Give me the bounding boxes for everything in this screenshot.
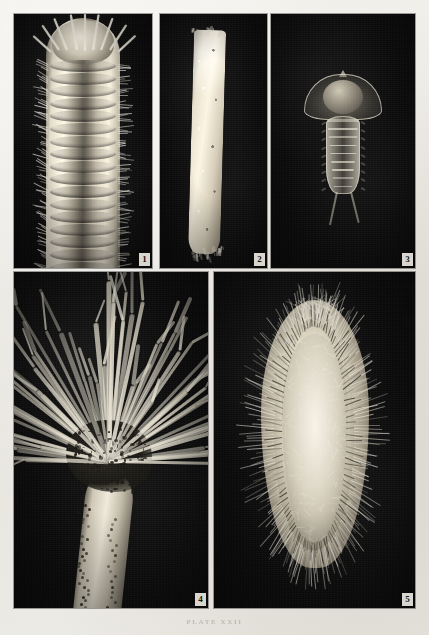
- segment-ring-5: [330, 153, 356, 155]
- crown-papilla: [99, 429, 101, 433]
- dorsal-hair: [320, 448, 321, 457]
- crown-papilla: [113, 488, 117, 490]
- trunk-papilla: [77, 511, 80, 514]
- crown-papilla: [93, 463, 97, 468]
- segment-11: [50, 186, 116, 198]
- crown-papilla: [129, 450, 131, 452]
- crown-papilla: [88, 458, 90, 461]
- chaeta: [118, 230, 126, 231]
- trunk-papilla: [77, 545, 80, 548]
- chaeta: [118, 70, 126, 71]
- crown-papilla: [109, 450, 112, 453]
- dorsal-hair: [291, 348, 298, 349]
- segment-3: [50, 85, 116, 97]
- segment-7: [50, 136, 116, 148]
- segment-5: [50, 110, 116, 122]
- dorsal-hair: [319, 439, 325, 440]
- segment-1: [50, 60, 116, 72]
- crown-papilla: [118, 428, 122, 430]
- crown-papilla: [123, 436, 127, 440]
- tentacle-tip: [205, 443, 208, 448]
- segment-ring-4: [329, 145, 356, 147]
- crown-papilla: [141, 459, 144, 462]
- figure-panel-3: 3: [271, 14, 415, 268]
- larva-chaeta: [360, 162, 365, 166]
- dorsal-hair: [277, 379, 285, 380]
- tentacle-tip: [105, 272, 110, 280]
- crown-papilla: [130, 443, 135, 447]
- tube-fray: [222, 247, 224, 250]
- crown-papilla: [145, 468, 149, 472]
- crown-papilla: [129, 459, 131, 461]
- crown-papilla: [112, 441, 115, 445]
- chaeta: [40, 181, 48, 184]
- larva-chaeta: [321, 179, 326, 183]
- crown-papilla: [99, 456, 103, 460]
- figure-number-label: 5: [402, 593, 413, 606]
- chaeta: [118, 125, 134, 128]
- crown-papilla: [114, 450, 116, 452]
- larva-dome: [323, 80, 363, 114]
- segment-9: [50, 161, 116, 173]
- figure-number-label: 2: [254, 253, 265, 266]
- chaeta: [118, 263, 132, 267]
- crown-papilla: [81, 449, 83, 452]
- crown-papilla: [75, 444, 78, 448]
- larva-chaeta: [360, 121, 365, 125]
- larva-chaeta: [321, 187, 326, 191]
- segment-ring-8: [333, 177, 354, 179]
- segment-12: [50, 199, 116, 211]
- caudal-cirrus-right: [350, 192, 359, 223]
- crown-papilla: [119, 440, 121, 443]
- crown-papilla: [88, 453, 92, 457]
- segment-15: [50, 236, 116, 248]
- segment-6: [50, 123, 116, 135]
- figure-number-label: 4: [195, 593, 206, 606]
- trunk-papilla: [83, 586, 86, 589]
- plate-caption: PLATE XXII: [0, 618, 429, 626]
- trunk-papilla: [82, 572, 85, 575]
- segment-10: [50, 173, 116, 185]
- segment-17: [50, 262, 116, 268]
- chaeta: [118, 140, 126, 141]
- chaeta: [118, 133, 128, 134]
- trunk-papilla: [109, 539, 112, 542]
- segment-ring-2: [328, 128, 358, 130]
- dorsal-hair: [309, 386, 310, 393]
- segment-ring-1: [327, 120, 359, 122]
- tentacle-tip: [131, 272, 134, 314]
- chaeta: [118, 254, 130, 256]
- segment-4: [50, 98, 116, 110]
- segment-13: [50, 211, 116, 223]
- larva-chaeta: [360, 154, 365, 158]
- crown-papilla: [134, 474, 137, 478]
- figure-number-label: 1: [139, 253, 150, 266]
- segment-2: [50, 73, 116, 85]
- crown-papilla: [104, 439, 106, 442]
- figure-panel-4: 4: [14, 272, 208, 608]
- trunk-papilla: [109, 570, 112, 573]
- trunk-papilla: [80, 542, 83, 545]
- plate-page: 1 2 3 4: [0, 0, 429, 635]
- crown-papilla: [128, 484, 130, 486]
- crown-papilla: [94, 435, 96, 437]
- crown-papilla: [97, 470, 100, 472]
- dorsal-hair: [310, 451, 311, 455]
- trunk-papilla: [85, 552, 88, 555]
- trunk-papilla: [76, 531, 79, 534]
- chaeta: [118, 164, 131, 166]
- segment-14: [50, 224, 116, 236]
- dorsal-hair: [316, 356, 317, 366]
- trunk-papilla: [76, 501, 79, 504]
- crown-papilla: [139, 468, 142, 472]
- larva-chaeta: [360, 146, 365, 150]
- crown-papilla: [120, 451, 124, 454]
- caudal-cirrus-left: [329, 192, 338, 226]
- crown-papilla: [123, 467, 126, 470]
- segment-ring-6: [331, 161, 355, 163]
- dorsal-hair: [343, 381, 344, 386]
- antenna-9: [117, 35, 136, 53]
- crown-papilla: [87, 463, 89, 467]
- figure-panel-5: 5: [214, 272, 415, 608]
- trunk-papilla: [88, 508, 91, 511]
